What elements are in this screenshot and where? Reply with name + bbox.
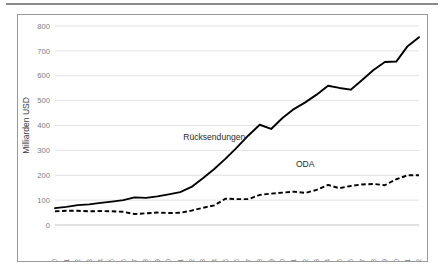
x-tick-label: 1992 — [74, 259, 81, 261]
y-tick-label: 300 — [37, 146, 50, 155]
x-tick-label: 2018 — [370, 259, 377, 261]
x-tick-label: 1999 — [154, 259, 161, 261]
x-tick-label: 2002 — [188, 259, 195, 261]
x-tick-label: 2015 — [336, 259, 343, 261]
x-tick-label: 2006 — [233, 259, 240, 261]
y-tick-label: 200 — [37, 171, 50, 180]
series-line-remittances — [55, 37, 419, 208]
y-tick-label: 500 — [37, 96, 50, 105]
x-tick-label: 1997 — [131, 259, 138, 261]
y-tick-label: 700 — [37, 47, 50, 56]
x-tick-label: 2003 — [199, 259, 206, 261]
y-tick-label: 100 — [37, 196, 50, 205]
y-axis-title: Milliarden USD — [21, 97, 31, 154]
x-tick-label: 2011 — [290, 259, 297, 261]
x-tick-labels-group: 1990199119921993199419951996199719981999… — [51, 259, 422, 261]
x-tick-label: 1996 — [120, 259, 127, 261]
series-annotation-label: ODA — [296, 159, 315, 169]
series-line-oda — [55, 175, 419, 214]
y-tick-label: 0 — [46, 221, 50, 230]
x-tick-label: 2001 — [177, 259, 184, 261]
y-tick-labels-group: 0100200300400500600700800 — [37, 22, 50, 230]
x-tick-label: 1991 — [63, 259, 70, 261]
x-tick-label: 1994 — [97, 259, 104, 261]
x-tick-label: 2007 — [245, 259, 252, 261]
x-tick-label: 2005 — [222, 259, 229, 261]
x-tick-label: 2008 — [256, 259, 263, 261]
x-tick-label: 1998 — [142, 259, 149, 261]
x-tick-label: 1993 — [86, 259, 93, 261]
y-tick-label: 800 — [37, 22, 50, 31]
gridlines-group — [55, 26, 419, 225]
x-tick-label: 2020 — [393, 259, 400, 261]
x-tick-label: 2022 — [415, 259, 422, 261]
x-tick-label: 1995 — [108, 259, 115, 261]
x-tick-label: 2017 — [359, 259, 366, 261]
x-tick-label: 2016 — [347, 259, 354, 261]
line-chart: 0100200300400500600700800 19901991199219… — [18, 15, 427, 261]
series-annotation-label: Rücksendungen — [183, 132, 245, 142]
x-tick-label: 2010 — [279, 259, 286, 261]
chart-page: 0100200300400500600700800 19901991199219… — [0, 0, 444, 274]
chart-frame: 0100200300400500600700800 19901991199219… — [17, 14, 428, 262]
x-tick-label: 2012 — [302, 259, 309, 261]
x-tick-label: 2021 — [404, 259, 411, 261]
x-tick-label: 2000 — [165, 259, 172, 261]
page-top-divider — [6, 3, 438, 5]
x-tick-label: 2009 — [268, 259, 275, 261]
x-tick-label: 2014 — [324, 259, 331, 261]
y-tick-label: 400 — [37, 121, 50, 130]
x-tick-label: 2019 — [381, 259, 388, 261]
x-tick-label: 2004 — [211, 259, 218, 261]
x-tick-label: 1990 — [51, 259, 58, 261]
y-tick-label: 600 — [37, 71, 50, 80]
x-tick-label: 2013 — [313, 259, 320, 261]
